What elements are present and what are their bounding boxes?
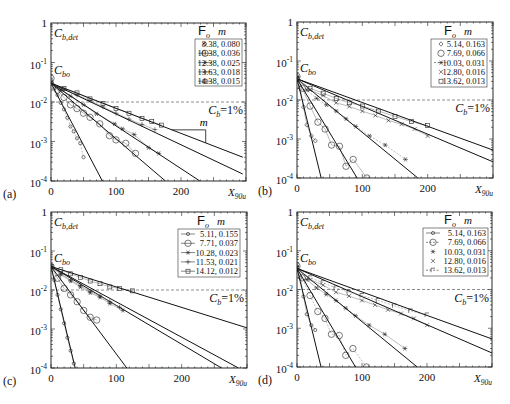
y-tick-label: 10-3	[276, 133, 293, 147]
y-tick-label: 10-1	[276, 55, 293, 69]
x-tick-label: 200	[419, 371, 436, 383]
series-3	[295, 265, 418, 367]
circle-small-marker	[72, 130, 75, 133]
y-tick-label: 10-1	[30, 57, 47, 71]
svg-text:Cb,det: Cb,det	[54, 215, 79, 231]
fit-line	[297, 79, 418, 178]
x-tick-label: 200	[419, 182, 436, 194]
cross-marker	[334, 101, 338, 105]
initial-concentration-label-subscript: bo	[62, 258, 70, 267]
panel-d: 110-110-210-310-40100200X90uCb,detCboCb=…	[255, 200, 510, 404]
plus-marker	[117, 305, 122, 310]
fit-line	[297, 268, 492, 353]
y-tick-label: 10-3	[276, 322, 293, 336]
circle-small-marker	[314, 328, 317, 331]
circle-small-marker	[79, 142, 82, 145]
y-axis-label-subscript: b,det	[308, 222, 325, 231]
series-1	[295, 265, 321, 367]
legend-item: 13.62, 0.013	[439, 76, 485, 86]
cross-marker	[373, 303, 377, 307]
cross-marker	[360, 299, 364, 303]
legend: Fom8.38, 0.08010.38, 0.03612.38, 0.02513…	[195, 23, 242, 86]
fit-line	[51, 83, 102, 181]
x-tick-label: 100	[354, 371, 371, 383]
legend: Fom5.11, 0.1557.71, 0.03710.28, 0.02311.…	[178, 213, 240, 277]
panel-b: 110-110-210-310-40100200X90uCb,detCboCb=…	[255, 0, 510, 204]
legend-item-label: 13.62, 0.013	[444, 265, 487, 275]
series-2	[48, 75, 166, 181]
series-2	[48, 263, 127, 368]
circle-small-marker	[66, 116, 69, 119]
svg-text:Cbo: Cbo	[300, 251, 316, 267]
series-4	[295, 266, 492, 353]
y-tick-label: 10-3	[30, 136, 47, 150]
y-tick-label: 10-3	[30, 323, 47, 337]
x-tick-label: 200	[173, 185, 190, 197]
plus-marker	[140, 122, 145, 127]
slope-label: m	[200, 116, 208, 128]
y-tick-label: 10-4	[30, 175, 47, 189]
plot-area	[48, 75, 243, 181]
plot-area	[294, 263, 492, 370]
legend-item-label: 14.12, 0.012	[196, 266, 239, 276]
fit-line	[297, 268, 417, 367]
fit-line	[297, 79, 321, 178]
legend: Fom5.14, 0.1637.69, 0.06610.03, 0.03112.…	[423, 212, 488, 276]
svg-text:Cb=1%: Cb=1%	[208, 103, 243, 119]
y-tick-label: 10-4	[276, 361, 293, 375]
cross-marker	[347, 105, 351, 109]
star-marker	[383, 143, 388, 147]
x-axis-label-subscript: 90u	[482, 189, 493, 198]
panel-label: (b)	[258, 184, 272, 198]
svg-text:X90u: X90u	[227, 186, 246, 201]
panel-d-plot: 110-110-210-310-40100200X90uCb,detCboCb=…	[255, 200, 510, 404]
legend: Fom5.14, 0.1637.69, 0.06610.03, 0.03112.…	[431, 23, 487, 87]
legend-title: Fom	[444, 23, 472, 40]
y-axis-label-subscript: b,det	[308, 32, 325, 41]
x-axis-label-subscript: 90u	[236, 379, 247, 388]
legend-title: Fom	[197, 213, 225, 230]
legend-item: 14.38, 0.015	[198, 76, 241, 86]
y-tick-label: 10-4	[276, 172, 293, 186]
legend-item-label: 13.62, 0.013	[443, 76, 486, 86]
threshold-label-rest: =1%	[220, 103, 243, 117]
plot-area	[48, 263, 247, 368]
fit-line	[51, 267, 127, 368]
y-tick-label: 10-1	[276, 245, 293, 259]
fit-line	[51, 267, 222, 368]
series-1	[49, 79, 102, 181]
circle-large-marker	[328, 331, 334, 337]
svg-text:Cb,det: Cb,det	[300, 215, 325, 231]
x-tick-label: 0	[294, 371, 300, 383]
svg-text:Cb=1%: Cb=1%	[454, 291, 489, 307]
cross-marker	[321, 283, 325, 287]
x-tick-label: 100	[354, 182, 371, 194]
threshold-label-rest: =1%	[467, 101, 490, 115]
panel-label: (d)	[258, 373, 272, 387]
svg-text:Cbo: Cbo	[54, 63, 70, 79]
y-axis-label-subscript: b,det	[62, 222, 79, 231]
x-tick-label: 0	[48, 372, 54, 384]
circle-small-marker	[82, 156, 85, 159]
series-2	[294, 263, 370, 370]
series-4	[295, 77, 493, 162]
cross-marker	[347, 294, 351, 298]
threshold-label-rest: =1%	[466, 291, 489, 305]
fit-line	[51, 83, 165, 181]
plot-area	[294, 73, 493, 181]
y-tick-label: 1	[42, 17, 48, 29]
svg-text:Cb,det: Cb,det	[54, 26, 79, 42]
svg-text:X90u: X90u	[474, 183, 493, 198]
panel-a-plot: m110-110-210-310-40100200X90uCb,detCboCb…	[0, 0, 255, 204]
panel-c: 110-110-210-310-40100200X90uCb,detCboCb=…	[0, 200, 255, 404]
svg-text:Cb,det: Cb,det	[300, 25, 325, 41]
x-tick-label: 100	[108, 185, 125, 197]
initial-concentration-label-subscript: bo	[62, 70, 70, 79]
cross-marker	[321, 94, 325, 98]
y-tick-label: 1	[288, 206, 294, 218]
cross-marker	[360, 109, 364, 113]
x-tick-label: 200	[173, 372, 190, 384]
fit-line	[51, 83, 243, 174]
panel-a: m110-110-210-310-40100200X90uCb,detCboCb…	[0, 0, 255, 204]
y-tick-label: 10-2	[30, 284, 47, 298]
